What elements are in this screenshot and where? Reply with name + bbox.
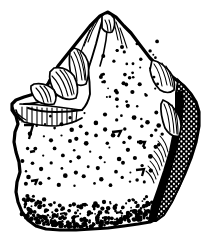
artifact-drawing (0, 0, 218, 249)
figure-canvas (0, 0, 218, 249)
